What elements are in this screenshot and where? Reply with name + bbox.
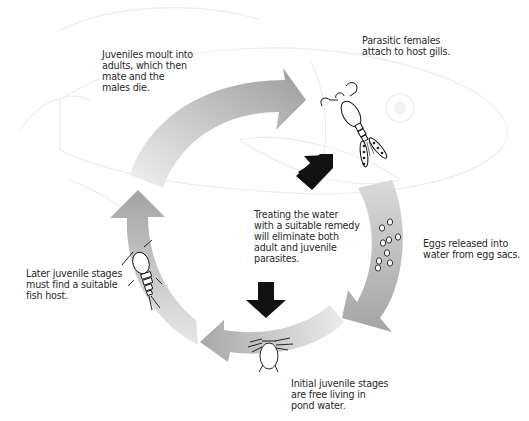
treatment-note: Treating the water with a suitable remed… <box>254 209 374 264</box>
life-cycle-diagram: Juveniles moult into adults, which then … <box>0 0 529 421</box>
stage-label-attach: Parasitic females attach to host gills. <box>362 35 482 57</box>
treatment-arrow-up-icon-body <box>296 154 333 190</box>
stage-label-later: Later juvenile stages must find a suitab… <box>26 268 136 301</box>
stage-label-adults: Juveniles moult into adults, which then … <box>102 49 212 93</box>
treatment-arrow-down-icon <box>246 282 286 318</box>
stage-label-initial: Initial juvenile stages are free living … <box>291 378 411 411</box>
stage-label-eggs: Eggs released into water from egg sacs. <box>423 238 529 260</box>
